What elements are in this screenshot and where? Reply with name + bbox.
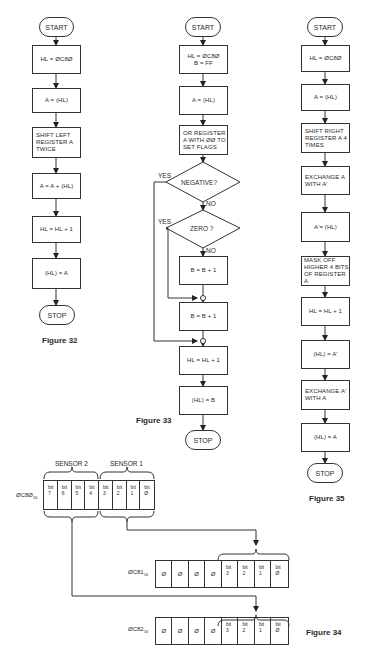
reg1-cell-3: bit3	[222, 561, 239, 587]
fig32-start-terminal: START	[39, 17, 74, 37]
reg0-cell-7: bit7	[44, 481, 58, 509]
reg1-cell-1: bit1	[255, 561, 272, 587]
fig33-step-1-line1: HL = ØC8Ø	[187, 53, 219, 60]
fig33-step-4: B = B + 1	[179, 256, 228, 285]
register-0c82: Ø Ø Ø Ø bit3 bit2 bit1 bitØ	[155, 617, 289, 645]
fig33-caption: Figure 33	[136, 416, 172, 425]
sensor-2-label: SENSOR 2	[55, 460, 88, 467]
fig35-caption: Figure 35	[309, 494, 345, 503]
fig35-start-terminal: START	[307, 17, 343, 37]
reg0-cell-1: bit1	[127, 481, 141, 509]
fig35-step-6: MASK OFF HIGHER 4 BITS OF REGISTER A	[301, 256, 350, 286]
fig33-step-3: OR REGISTER A WITH ØØ TO SET FLAGS	[179, 125, 228, 155]
reg0-cell-6: bit6	[58, 481, 72, 509]
reg2-cell-3: bit3	[222, 618, 239, 644]
fig33-decision-zero: ZERO ?	[190, 225, 213, 232]
fig32-caption: Figure 32	[42, 336, 78, 345]
fig35-step-1: HL = ØC8Ø	[301, 45, 350, 72]
register-addr-0c80: ØC8Ø16	[16, 492, 37, 500]
register-0c81: Ø Ø Ø Ø bit3 bit2 bit1 bitØ	[155, 560, 289, 588]
fig34-caption: Figure 34	[306, 628, 342, 637]
fig33-yes-label-2: YES	[158, 218, 171, 225]
reg1-cell-5: Ø	[189, 561, 205, 587]
sensor-1-label: SENSOR 1	[110, 460, 143, 467]
fig35-step-9: EXCHANGE A' WITH A	[301, 380, 350, 410]
fig33-no-label-1: NO	[206, 200, 216, 207]
reg1-cell-7: Ø	[156, 561, 172, 587]
fig32-step-1: HL = ØC8Ø	[32, 45, 81, 74]
fig32-step-2: A = (HL)	[32, 88, 81, 113]
fig35-step-7: HL = HL + 1	[301, 297, 350, 326]
fig32-stop-terminal: STOP	[39, 305, 75, 325]
reg1-cell-2: bit2	[238, 561, 255, 587]
reg0-cell-0: bitØ	[140, 481, 154, 509]
fig32-step-5: HL = HL + 1	[32, 216, 81, 243]
reg2-cell-1: bit1	[255, 618, 272, 644]
fig33-step-1-line2: B = FF	[194, 60, 213, 67]
reg2-cell-0: bitØ	[271, 618, 288, 644]
reg2-cell-6: Ø	[172, 618, 188, 644]
fig35-stop-terminal: STOP	[307, 463, 343, 483]
fig35-step-10: (HL) = A	[301, 423, 350, 452]
register-0c80: bit7 bit6 bit5 bit4 bit3 bit2 bit1 bitØ	[43, 480, 155, 510]
fig32-step-6: (HL) = A	[32, 258, 81, 289]
reg2-cell-5: Ø	[189, 618, 205, 644]
fig33-step-7: (HL) = B	[179, 386, 228, 415]
fig35-step-2: A = (HL)	[301, 84, 350, 111]
reg1-cell-4: Ø	[205, 561, 221, 587]
reg1-cell-6: Ø	[172, 561, 188, 587]
register-addr-0c81: ØC8116	[128, 569, 148, 577]
fig35-step-8: (HL) = A'	[301, 340, 350, 369]
reg0-cell-4: bit4	[85, 481, 99, 509]
reg0-cell-3: bit3	[99, 481, 113, 509]
fig33-step-5: B = B + 1	[179, 302, 228, 331]
fig33-yes-label-1: YES	[158, 172, 171, 179]
reg0-cell-5: bit5	[72, 481, 86, 509]
fig35-step-4: EXCHANGE A WITH A'	[301, 166, 350, 195]
fig33-step-1: HL = ØC8Ø B = FF	[179, 45, 228, 74]
fig33-stop-terminal: STOP	[185, 430, 221, 450]
fig32-step-4: A = A + (HL)	[32, 173, 81, 199]
fig33-no-label-2: NO	[206, 247, 216, 254]
register-addr-0c82: ØC8216	[128, 626, 148, 634]
fig32-step-3: SHIFT LEFT REGISTER A TWICE	[32, 127, 81, 158]
fig35-step-5: A'= (HL)	[301, 212, 350, 242]
reg2-cell-7: Ø	[156, 618, 172, 644]
fig33-start-terminal: START	[185, 17, 221, 37]
fig33-step-2: A = (HL)	[179, 86, 228, 115]
fig33-decision-negative: NEGATIVE?	[181, 179, 217, 186]
reg0-cell-2: bit2	[113, 481, 127, 509]
reg1-cell-0: bitØ	[271, 561, 288, 587]
fig35-step-3: SHIFT RIGHT REGISTER A 4 TIMES	[301, 123, 350, 153]
fig33-step-6: HL = HL + 1	[179, 346, 228, 375]
reg2-cell-4: Ø	[205, 618, 221, 644]
reg2-cell-2: bit2	[238, 618, 255, 644]
